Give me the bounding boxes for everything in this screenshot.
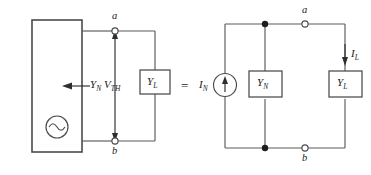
- right-load-admittance-label: YL: [337, 77, 347, 91]
- left-vth-label-sub: TH: [111, 84, 121, 93]
- right-terminal-b-label: b: [302, 153, 307, 164]
- left-terminal-b-label: b: [112, 146, 117, 157]
- right-load-current-label: IL: [351, 48, 359, 62]
- left-vth-label: VTH: [104, 79, 120, 93]
- right-terminal-b-node: [302, 145, 308, 151]
- left-load-admittance-label: YL: [147, 76, 157, 90]
- right-norton-admittance-label: YN: [257, 77, 268, 91]
- right-terminal-a-label: a: [302, 5, 307, 16]
- ac-source-icon: [46, 116, 68, 138]
- equals-sign: =: [181, 79, 188, 92]
- right-bottom-junction-dot: [262, 145, 268, 151]
- left-yn-label: YN: [90, 79, 101, 93]
- current-source-icon: [214, 74, 237, 97]
- left-terminal-a-label: a: [112, 11, 117, 22]
- left-terminal-b-node: [112, 138, 118, 144]
- right-norton-admittance-label-sub: N: [263, 82, 268, 91]
- right-terminal-a-node: [302, 21, 308, 27]
- right-load-current-label-sub: L: [355, 53, 359, 62]
- right-current-source-label: IN: [199, 79, 208, 93]
- left-load-admittance-label-sub: L: [153, 81, 157, 90]
- il-arrow: [342, 44, 348, 66]
- circuit-diagram-figure: a b YN VTH YL = IN YN YL IL a b: [0, 0, 371, 175]
- left-yn-label-sub: N: [96, 84, 101, 93]
- left-terminal-a-node: [112, 28, 118, 34]
- right-current-source-label-sub: N: [203, 84, 208, 93]
- right-load-admittance-label-sub: L: [343, 82, 347, 91]
- right-top-junction-dot: [262, 21, 268, 27]
